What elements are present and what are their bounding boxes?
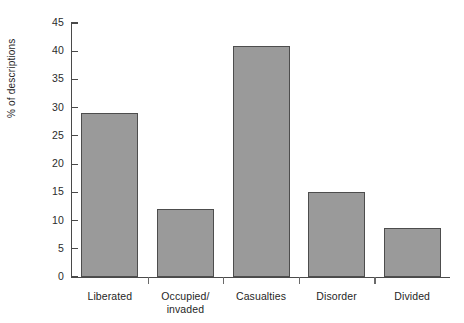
y-tick-label: 25 xyxy=(38,129,64,141)
y-tick-label: 0 xyxy=(38,270,64,282)
x-tick-mark xyxy=(299,277,300,284)
bar xyxy=(384,228,441,277)
x-tick-mark xyxy=(374,277,375,284)
y-tick-label: 35 xyxy=(38,72,64,84)
y-tick-label: 40 xyxy=(38,44,64,56)
plot-area xyxy=(72,23,450,277)
bar xyxy=(233,46,290,277)
bar-chart: % of descriptions 051015202530354045 Lib… xyxy=(0,0,464,323)
y-tick-label: 10 xyxy=(38,214,64,226)
y-axis-title-text: % of descriptions xyxy=(6,104,17,118)
y-tick-label: 5 xyxy=(38,242,64,254)
y-tick-label: 15 xyxy=(38,185,64,197)
bar xyxy=(81,113,138,277)
y-tick-label: 30 xyxy=(38,101,64,113)
bar xyxy=(308,192,365,277)
bar xyxy=(157,209,214,277)
x-tick-mark xyxy=(148,277,149,284)
x-category-label: Divided xyxy=(362,290,462,303)
x-tick-mark xyxy=(223,277,224,284)
y-tick-label: 45 xyxy=(38,16,64,28)
y-axis-title: % of descriptions xyxy=(6,100,17,114)
y-tick-label: 20 xyxy=(38,157,64,169)
